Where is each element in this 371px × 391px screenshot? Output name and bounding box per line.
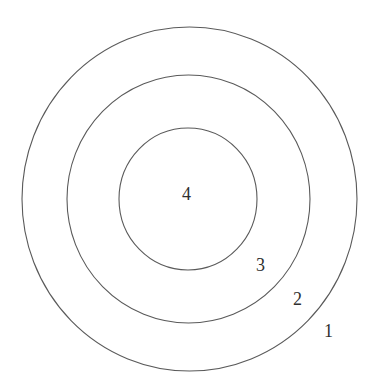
label-3: 3	[256, 255, 265, 275]
label-4-center: 4	[182, 184, 191, 204]
concentric-circles-diagram: 1 2 3 4	[0, 0, 371, 391]
label-1: 1	[324, 321, 333, 341]
label-2: 2	[293, 289, 302, 309]
